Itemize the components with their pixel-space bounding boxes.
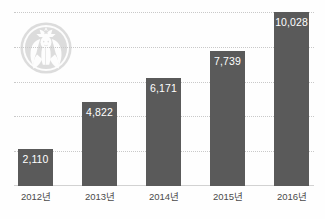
- bar-slot-2013: 4,822: [82, 11, 117, 186]
- bar-slot-2015: 7,739: [210, 11, 245, 186]
- x-tick-2013: 2013년: [76, 189, 124, 203]
- bar-value-2014: 6,171: [146, 82, 181, 94]
- bar-2012[interactable]: 2,110: [18, 149, 53, 186]
- bar-slot-2016: 10,028: [274, 11, 309, 186]
- bar-2014[interactable]: 6,171: [146, 78, 181, 186]
- x-tick-2015: 2015년: [204, 189, 252, 203]
- bar-group: 2,110 4,822 6,171 7,739 10,0: [14, 11, 314, 186]
- bar-2013[interactable]: 4,822: [82, 102, 117, 186]
- bar-slot-2014: 6,171: [146, 11, 181, 186]
- bar-2015[interactable]: 7,739: [210, 51, 245, 186]
- x-tick-2012: 2012년: [12, 189, 60, 203]
- plot-area: 2,110 4,822 6,171 7,739 10,0: [14, 11, 314, 186]
- bar-value-2015: 7,739: [210, 55, 245, 67]
- bar-chart: 2,110 4,822 6,171 7,739 10,0: [0, 0, 325, 219]
- x-tick-2016: 2016년: [268, 189, 316, 203]
- x-axis: 2012년 2013년 2014년 2015년 2016년: [14, 189, 314, 209]
- bar-value-2016: 10,028: [274, 16, 309, 28]
- bar-slot-2012: 2,110: [18, 11, 53, 186]
- bar-value-2013: 4,822: [82, 106, 117, 118]
- x-tick-2014: 2014년: [140, 189, 188, 203]
- bar-2016[interactable]: 10,028: [274, 12, 309, 186]
- bar-value-2012: 2,110: [18, 153, 53, 165]
